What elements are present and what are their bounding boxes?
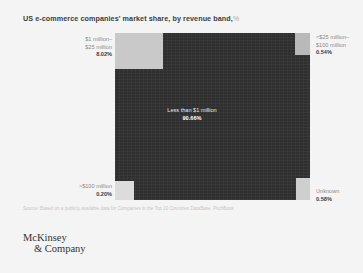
label-less-than-1m-line1: Less than $1 million (167, 107, 216, 113)
label-25m-100m-line2: $100 million (316, 42, 346, 48)
treemap-tile-1m-25m[interactable] (115, 33, 163, 69)
page-title-text: US e-commerce companies' market share, b… (23, 14, 233, 23)
mckinsey-logo-line1: McKinsey (23, 232, 67, 243)
label-1m-25m-line1: $1 million– (85, 36, 112, 42)
label-unknown: Unknown 0.58% (316, 188, 339, 203)
mckinsey-logo: McKinsey & Company (23, 232, 86, 254)
label-25m-100m-line1: <$25 million– (316, 34, 349, 40)
source-note: Source: Based on a publicly available da… (23, 206, 234, 212)
label-1m-25m-line2: $25 million (85, 44, 112, 50)
page-title-unit: % (233, 14, 239, 23)
label-1m-25m-percent: 8.02% (47, 51, 112, 59)
label-1m-25m: $1 million– $25 million 8.02% (47, 36, 112, 59)
label-25m-100m-percent: 0.54% (316, 49, 349, 57)
label-25m-100m: <$25 million– $100 million 0.54% (316, 34, 349, 57)
label-over-100m-percent: 0.20% (47, 191, 112, 199)
treemap-tile-unknown[interactable] (296, 178, 310, 200)
label-unknown-percent: 0.58% (316, 196, 339, 204)
treemap-tile-25m-100m[interactable] (295, 33, 310, 55)
treemap-tile-over-100m[interactable] (115, 181, 134, 200)
label-less-than-1m-percent: 90.66% (152, 115, 232, 123)
label-less-than-1m: Less than $1 million 90.66% (152, 107, 232, 122)
label-over-100m-line1: >$100 million (79, 183, 112, 189)
label-unknown-line1: Unknown (316, 188, 339, 194)
label-over-100m: >$100 million 0.20% (47, 183, 112, 198)
chart-page: US e-commerce companies' market share, b… (0, 0, 363, 273)
mckinsey-logo-line2: & Company (23, 243, 86, 254)
page-title: US e-commerce companies' market share, b… (23, 14, 239, 23)
